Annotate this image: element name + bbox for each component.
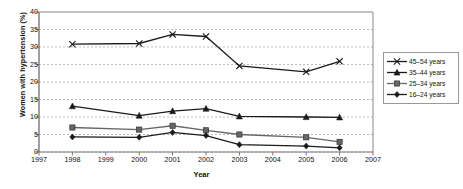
legend-marker-triangle	[386, 67, 408, 78]
legend-label: 35–44 years	[408, 69, 445, 76]
chart-legend: 45–54 years35–44 years25–34 years16–24 y…	[383, 52, 459, 104]
y-tick-label: 15	[20, 96, 38, 103]
x-tick-label: 1998	[55, 155, 89, 164]
legend-label: 25–34 years	[408, 80, 445, 87]
x-tick-label: 1999	[89, 155, 123, 164]
marker-square	[170, 123, 175, 128]
y-tick-label: 25	[20, 61, 38, 68]
marker-square	[137, 127, 142, 132]
marker-diamond	[170, 129, 175, 135]
y-tick-label: 5	[20, 131, 38, 138]
legend-label: 45–54 years	[408, 58, 445, 65]
legend-item[interactable]: 45–54 years	[386, 56, 456, 67]
x-tick-label: 2007	[356, 155, 390, 164]
legend-label: 16–24 years	[408, 91, 445, 98]
y-tick-label: 10	[20, 113, 38, 120]
legend-item[interactable]: 35–44 years	[386, 67, 456, 78]
legend-marker-diamond	[386, 89, 408, 100]
marker-square	[337, 139, 342, 144]
legend-marker-square	[386, 78, 408, 89]
marker-square	[70, 125, 75, 130]
marker-diamond	[394, 92, 399, 98]
x-tick-label: 2004	[256, 155, 290, 164]
marker-square	[394, 81, 399, 86]
y-tick-label: 20	[20, 78, 38, 85]
marker-diamond	[237, 142, 242, 148]
x-tick-label: 2000	[122, 155, 156, 164]
y-tick-label: 40	[20, 8, 38, 15]
marker-diamond	[203, 133, 208, 139]
legend-item[interactable]: 16–24 years	[386, 89, 456, 100]
series-2	[69, 103, 342, 120]
x-tick-label: 1997	[22, 155, 56, 164]
y-tick-label: 30	[20, 43, 38, 50]
marker-square	[237, 132, 242, 137]
x-tick-label: 2005	[289, 155, 323, 164]
hypertension-line-chart: Women with hypertension (%) 051015202530…	[0, 0, 463, 189]
x-tick-label: 2001	[156, 155, 190, 164]
legend-marker-x-cross	[386, 56, 408, 67]
marker-diamond	[337, 145, 342, 151]
x-axis-title: Year	[30, 170, 373, 179]
series-1	[69, 31, 342, 75]
x-tick-label: 2006	[323, 155, 357, 164]
series-line	[72, 34, 339, 71]
marker-diamond	[304, 143, 309, 149]
marker-diamond	[137, 134, 142, 140]
marker-square	[304, 135, 309, 140]
series-4	[70, 129, 342, 150]
legend-item[interactable]: 25–34 years	[386, 78, 456, 89]
x-tick-label: 2002	[189, 155, 223, 164]
y-tick-label: 35	[20, 26, 38, 33]
marker-diamond	[70, 134, 75, 140]
x-tick-label: 2003	[222, 155, 256, 164]
